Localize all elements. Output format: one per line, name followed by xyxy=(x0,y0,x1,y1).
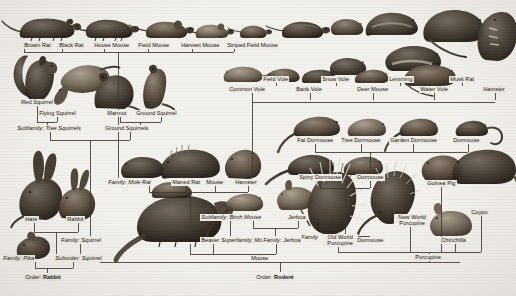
rank-word: Order xyxy=(25,274,40,280)
label-dormouse-species: Dormouse xyxy=(452,137,481,144)
label-family-jerboa: Family: Jerboa xyxy=(262,237,302,244)
label-ground-squirrel: Ground Squirrel xyxy=(135,110,178,117)
label-suborder-squirrel: Suborder: Squirrel xyxy=(54,255,103,262)
taxon-name: Rabbit xyxy=(43,274,61,280)
label-red-squirrel: Red Squirrel xyxy=(20,99,54,106)
label-house-mouse: House Mouse xyxy=(93,42,130,49)
label-black-rat: Black Rat xyxy=(58,42,85,49)
label-field-mouse: Field Mouse xyxy=(137,42,170,49)
label-fat-dormouse: Fat Dormouse xyxy=(296,137,334,144)
label-subfamily-tree-squirrels: Subfamily: Tree Squirrels xyxy=(16,125,82,132)
label-hare: Hare xyxy=(24,216,39,223)
label-mouse-species: Mouse xyxy=(205,179,224,186)
rank-word: Subfamily xyxy=(17,125,42,131)
label-jerboa-species: Jerboa xyxy=(287,214,307,221)
taxon-name: Squirrel xyxy=(81,237,101,243)
label-garden-dormouse: Garden Dormouse xyxy=(389,137,438,144)
rank-word: Suborder xyxy=(55,255,78,261)
rank-word: Superfamily xyxy=(221,237,251,243)
label-lemming: Lemming xyxy=(388,76,414,83)
label-subfamily-birch-mouse: Subfamily: Birch Mouse xyxy=(200,214,262,221)
label-water-vole: Water Vole xyxy=(419,86,449,93)
rank-word: Family xyxy=(263,237,280,243)
label-family-mole-rat: Family: Mole Rat xyxy=(107,179,152,186)
label-bank-vole: Bank Vole xyxy=(295,86,323,93)
rank-word: Family xyxy=(61,237,78,243)
taxon-name: Birch Mouse xyxy=(229,214,261,220)
label-spiny-dormouse: Spiny Dormouse xyxy=(298,174,342,181)
rank-word: Family xyxy=(3,255,20,261)
taxon-name: Squirrel xyxy=(82,255,102,261)
label-order-rabbit: Order: Rabbit xyxy=(24,274,62,281)
label-striped-field-mouse: Striped Field Mouse xyxy=(226,42,279,49)
label-musk-rat: Musk Rat xyxy=(449,76,475,83)
label-guinea-pig: Guinea Pig xyxy=(426,180,457,187)
label-mouse-group: Mouse xyxy=(250,255,269,262)
label-snow-vole: Snow Vole xyxy=(321,76,350,83)
label-order-rodent: Order: Rodent xyxy=(255,274,295,281)
label-harvest-mouse: Harvest Mouse xyxy=(180,42,221,49)
label-old-world-porcupine: Old World Porcupine xyxy=(322,234,358,247)
label-field-vole: Field Vole xyxy=(262,76,289,83)
label-maned-rat: Maned Rat xyxy=(171,179,201,186)
label-dormouse-group: Dormouse xyxy=(356,174,385,181)
taxon-name: Mole Rat xyxy=(128,179,151,185)
label-deer-mouse: Deer Mouse xyxy=(356,86,389,93)
taxon-name: Jerboa xyxy=(283,237,300,243)
label-new-world-porcupine: New World Porcupine xyxy=(394,214,430,227)
label-marmot: Marmot xyxy=(106,110,128,117)
label-ground-squirrels-group: Ground Squirrels xyxy=(104,125,149,132)
label-brown-rat: Brown Rat xyxy=(23,42,52,49)
label-hamster-mid: Hamster xyxy=(234,179,258,186)
label-hamster-top: Hamster xyxy=(482,86,506,93)
taxon-name: Pika xyxy=(23,255,34,261)
label-beaver: Beaver xyxy=(200,237,220,244)
label-rabbit-species: Rabbit xyxy=(66,216,85,223)
label-tree-dormouse: Tree Dormouse xyxy=(340,137,382,144)
rank-word: Order xyxy=(256,274,271,280)
label-porcupine-group: Porcupine xyxy=(414,254,442,261)
label-family-rank-porcupine: Family xyxy=(300,234,319,241)
taxon-name: Rodent xyxy=(274,274,294,280)
label-coypu: Coypu xyxy=(470,209,489,216)
label-common-vole: Common Vole xyxy=(228,86,266,93)
label-family-squirrel: Family: Squirrel xyxy=(60,237,102,244)
label-dormouse-family-node: Dormouse xyxy=(356,237,385,244)
rodent-classification-chart: Brown Rat Black Rat House Mouse Field Mo… xyxy=(0,0,516,296)
rank-word: Subfamily xyxy=(201,214,226,220)
taxon-name: Tree Squirrels xyxy=(45,125,80,131)
rank-word: Family xyxy=(108,179,125,185)
label-family-pika: Family: Pika xyxy=(2,255,35,262)
label-chinchilla: Chinchilla xyxy=(440,237,467,244)
label-flying-squirrel: Flying Squirrel xyxy=(38,110,77,117)
